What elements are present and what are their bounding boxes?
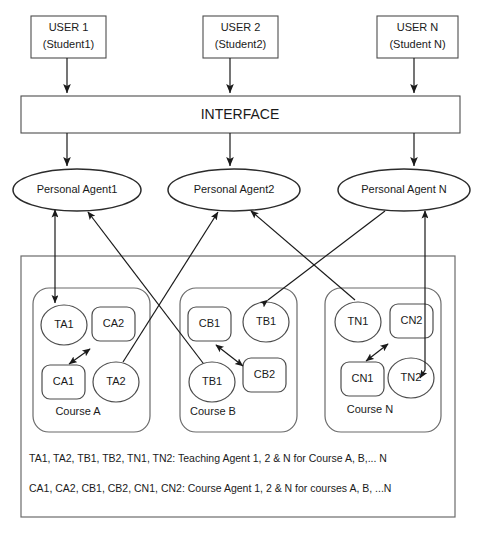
node-ca2-label: CA2 (103, 317, 124, 329)
node-tb1-bottom-label: TB1 (202, 375, 222, 387)
node-tn2-label: TN2 (401, 371, 422, 383)
course-a-label: Course A (55, 405, 101, 417)
user2-line2: (Student2) (215, 38, 266, 50)
node-cn2[interactable]: CN2 (390, 304, 433, 338)
arrow-agentN-tn2 (420, 211, 425, 378)
node-ta1[interactable]: TA1 (41, 305, 87, 345)
interface-bar[interactable]: INTERFACE (21, 96, 460, 133)
node-cb2-label: CB2 (254, 368, 275, 380)
legend-line-2: CA1, CA2, CB1, CB2, CN1, CN2: Course Age… (29, 482, 391, 494)
personal-agent-2-label: Personal Agent2 (194, 183, 275, 195)
course-b-label: Course B (190, 405, 236, 417)
node-ca1[interactable]: CA1 (42, 365, 85, 399)
architecture-diagram: USER 1 (Student1) USER 2 (Student2) USER… (0, 0, 488, 534)
node-cn2-label: CN2 (400, 314, 422, 326)
course-n-label: Course N (347, 403, 394, 415)
user-box-user2[interactable]: USER 2 (Student2) (203, 16, 278, 58)
arrow-ca2-ca1 (69, 349, 90, 364)
node-cb1[interactable]: CB1 (188, 307, 231, 341)
node-ta2[interactable]: TA2 (93, 362, 139, 402)
node-tb1-bottom[interactable]: TB1 (189, 362, 235, 402)
node-ta1-label: TA1 (54, 318, 73, 330)
node-tn2[interactable]: TN2 (388, 358, 434, 398)
arrow-cn2-cn1 (366, 344, 388, 361)
userN-line1: USER N (397, 21, 439, 33)
node-cb2[interactable]: CB2 (243, 358, 286, 392)
node-tn1[interactable]: TN1 (335, 302, 381, 342)
node-ca2[interactable]: CA2 (92, 307, 135, 341)
diagram-canvas: USER 1 (Student1) USER 2 (Student2) USER… (0, 0, 488, 534)
node-cb1-label: CB1 (199, 317, 220, 329)
interface-label: INTERFACE (201, 106, 280, 122)
personal-agent-N-label: Personal Agent N (361, 183, 447, 195)
userN-line2: (Student N) (389, 38, 445, 50)
node-tb1-top-label: TB1 (256, 315, 276, 327)
user2-line1: USER 2 (221, 21, 261, 33)
node-cn1-label: CN1 (351, 372, 373, 384)
user-box-userN[interactable]: USER N (Student N) (377, 16, 458, 58)
user1-line1: USER 1 (49, 21, 89, 33)
personal-agent-1-label: Personal Agent1 (37, 183, 118, 195)
user1-line2: (Student1) (43, 38, 94, 50)
node-tn1-label: TN1 (348, 315, 369, 327)
personal-agent-N[interactable]: Personal Agent N (338, 169, 470, 211)
legend-line-1: TA1, TA2, TB1, TB2, TN1, TN2: Teaching A… (29, 452, 387, 464)
personal-agent-2[interactable]: Personal Agent2 (168, 169, 300, 211)
user-box-user1[interactable]: USER 1 (Student1) (31, 16, 106, 58)
node-tb1-top[interactable]: TB1 (243, 302, 289, 342)
node-ta2-label: TA2 (106, 375, 125, 387)
node-cn1[interactable]: CN1 (341, 362, 384, 396)
node-ca1-label: CA1 (53, 375, 74, 387)
personal-agent-1[interactable]: Personal Agent1 (13, 169, 141, 211)
